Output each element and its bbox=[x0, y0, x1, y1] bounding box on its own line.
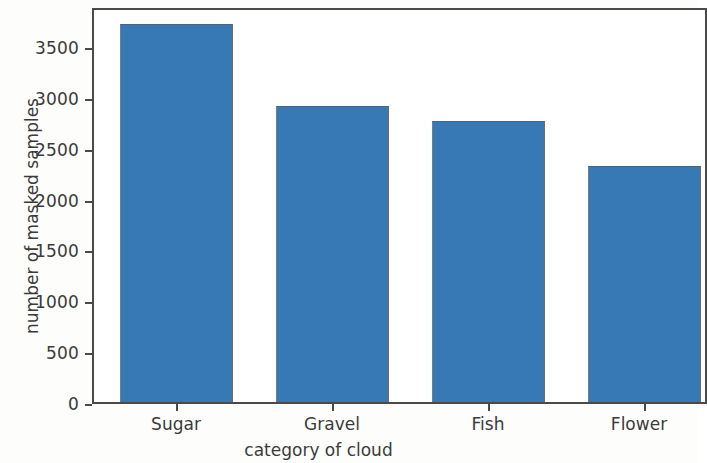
x-axis-title-wrapper: category of cloud bbox=[0, 440, 697, 460]
y-tick-mark-0 bbox=[85, 404, 92, 406]
y-tick-label-500: 500 bbox=[46, 343, 79, 363]
y-tick-mark-2000 bbox=[85, 201, 92, 203]
bars-group bbox=[94, 10, 705, 402]
bar-sugar bbox=[120, 24, 233, 402]
x-tick-label-fish: Fish bbox=[472, 414, 505, 434]
x-tick-label-gravel: Gravel bbox=[304, 414, 360, 434]
y-tick-mark-1000 bbox=[85, 302, 92, 304]
x-tick-label-sugar: Sugar bbox=[151, 414, 201, 434]
x-tick-mark-fish bbox=[488, 404, 490, 411]
y-tick-mark-3500 bbox=[85, 48, 92, 50]
x-tick-label-flower: Flower bbox=[611, 414, 667, 434]
x-tick-mark-gravel bbox=[332, 404, 334, 411]
plot-area bbox=[92, 8, 707, 404]
bar-gravel bbox=[276, 106, 389, 402]
x-tick-mark-flower bbox=[644, 404, 646, 411]
bar-fish bbox=[432, 121, 545, 402]
x-tick-mark-sugar bbox=[176, 404, 178, 411]
y-axis-title: number of masked samples bbox=[22, 26, 42, 406]
y-tick-mark-2500 bbox=[85, 150, 92, 152]
bar-flower bbox=[588, 166, 701, 402]
y-tick-mark-1500 bbox=[85, 251, 92, 253]
y-tick-mark-500 bbox=[85, 353, 92, 355]
y-tick-mark-3000 bbox=[85, 99, 92, 101]
y-tick-label-0: 0 bbox=[68, 394, 79, 414]
x-axis-title: category of cloud bbox=[244, 440, 392, 460]
